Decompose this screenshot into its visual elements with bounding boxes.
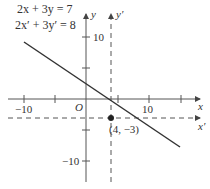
y-prime-axis-label: y′ [115,8,124,20]
tick-label-x-10: 10 [142,103,154,115]
tick-label-y-10: 10 [93,31,105,43]
point-label: (4, −3) [109,123,139,136]
tick-label-x-neg10: −10 [15,103,33,115]
tick-label-y-neg10: −10 [62,155,80,167]
y-axis-label: y [90,8,96,20]
coordinate-diagram: y y′ x x′ O −10 10 10 −10 (4, −3) [0,0,210,189]
x-axis-label: x [197,100,203,112]
graph-line [24,42,180,147]
point-marker [108,115,114,121]
origin-label: O [75,101,83,113]
x-prime-axis-label: x′ [197,120,206,132]
